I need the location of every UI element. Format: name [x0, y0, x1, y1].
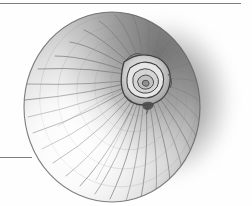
onion-illustration — [0, 0, 252, 206]
top-horizontal-rule — [0, 3, 241, 4]
illustration-page — [0, 0, 252, 206]
left-horizontal-rule — [0, 157, 32, 158]
paper-grain-overlay — [0, 0, 252, 206]
